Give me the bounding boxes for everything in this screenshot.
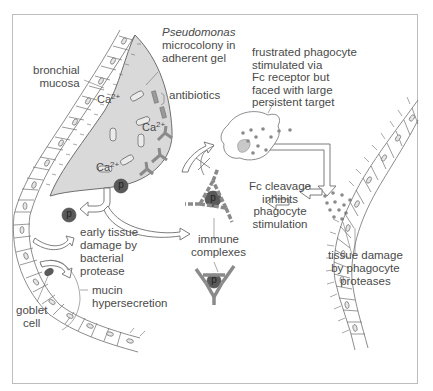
- protease-label-1: p: [115, 179, 127, 190]
- protease-label-3: p: [207, 192, 219, 203]
- immune-complex-pointer-2: [214, 262, 218, 272]
- label-goblet-cell: goblet cell: [16, 304, 47, 330]
- label-pseudomonas: Pseudomonas: [162, 26, 236, 39]
- label-antibiotics: antibiotics: [169, 89, 220, 102]
- protease-label-2: p: [63, 208, 75, 219]
- right-epithelium: [334, 100, 418, 350]
- calcium-ion-1: Ca2+: [97, 92, 120, 105]
- label-mucin-hypersecretion: mucin hypersecretion: [92, 284, 167, 310]
- right-cilia: [326, 97, 410, 333]
- label-fc-cleavage: Fc cleavage inhibits phagocyte stimulati…: [249, 180, 311, 230]
- label-bronchial-mucosa: bronchial mucosa: [33, 64, 80, 90]
- goblet-cell-shape: [43, 266, 55, 277]
- right-epithelium-cells: [334, 108, 418, 334]
- label-microcolony: microcolony in adherent gel: [162, 39, 236, 65]
- label-immune-complexes: immune complexes: [191, 233, 246, 259]
- protease-label-4: p: [208, 274, 220, 285]
- calcium-ion-3: Ca2+: [96, 160, 119, 173]
- label-early-tissue-damage: early tissue damage by bacterial proteas…: [80, 226, 138, 278]
- label-frustrated-phagocyte: frustrated phagocyte stimulated via Fc r…: [252, 46, 357, 109]
- calcium-ion-2: Ca2+: [142, 120, 165, 133]
- label-tissue-damage-phagocyte: tissue damage by phagocyte proteases: [328, 249, 403, 288]
